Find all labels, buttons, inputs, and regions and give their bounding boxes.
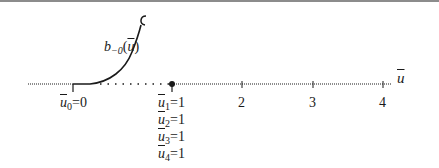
curve-label-paren-close: )	[134, 39, 139, 54]
knot-dot-icon	[169, 81, 175, 87]
axis-label: u	[397, 71, 405, 86]
diagram-canvas: b−0(u) u 2 3 4 u0=0 u1=1 u2=1 u3=1 u4=1	[0, 0, 439, 168]
knot-value: =1	[170, 146, 185, 161]
curve-label: b−0(u)	[104, 40, 139, 56]
knot-value: =1	[170, 112, 185, 127]
knot-label-u0: u0=0	[60, 96, 87, 112]
knot-var: u	[158, 95, 165, 110]
knot-value: =1	[170, 95, 185, 110]
knot-value: =0	[72, 95, 87, 110]
knot-var: u	[60, 95, 67, 110]
knot-label-u2: u2=1	[158, 113, 185, 129]
knot-label-u1: u1=1	[158, 96, 185, 112]
knot-value: =1	[170, 129, 185, 144]
open-end-bracket-icon	[141, 16, 146, 25]
knot-var: u	[158, 129, 165, 144]
tick-label-2: 2	[238, 96, 245, 110]
tick-label-3: 3	[309, 96, 316, 110]
knot-var: u	[158, 146, 165, 161]
tick-label-4: 4	[379, 96, 386, 110]
knot-label-u3: u3=1	[158, 130, 185, 146]
diagram-graphics	[0, 0, 439, 168]
curve-label-subscript: −0	[111, 45, 123, 56]
knot-label-u4: u4=1	[158, 147, 185, 163]
curve-label-base: b	[104, 39, 111, 54]
knot-var: u	[158, 112, 165, 127]
